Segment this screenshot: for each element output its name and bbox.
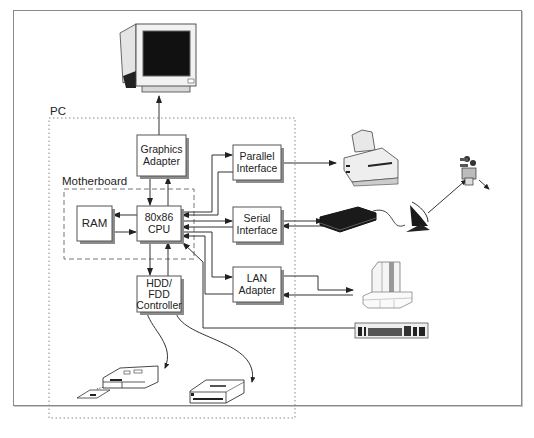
satellite-icon bbox=[460, 156, 476, 185]
keyboard-icon bbox=[355, 323, 428, 338]
floppy-drive-icon bbox=[103, 366, 158, 388]
svg-text:Graphics: Graphics bbox=[140, 143, 182, 155]
block-cpu: 80x86 CPU bbox=[137, 206, 184, 244]
svg-text:Adapter: Adapter bbox=[239, 284, 276, 296]
svg-text:Controller: Controller bbox=[136, 299, 182, 311]
motherboard-label: Motherboard bbox=[62, 175, 127, 187]
printer-icon bbox=[344, 130, 398, 186]
block-serial-interface: Serial Interface bbox=[233, 207, 284, 245]
pc-architecture-diagram: PC Motherboard bbox=[0, 0, 534, 438]
svg-text:80x86: 80x86 bbox=[145, 211, 174, 223]
block-ram: RAM bbox=[77, 206, 115, 244]
block-hdd-fdd-controller: HDD/ FDD Controller bbox=[136, 276, 184, 315]
svg-text:Adapter: Adapter bbox=[143, 155, 180, 167]
svg-text:RAM: RAM bbox=[82, 217, 108, 229]
crt-monitor-icon bbox=[120, 24, 196, 92]
satellite-dish-icon bbox=[406, 202, 430, 232]
svg-text:Interface: Interface bbox=[237, 162, 278, 174]
floppy-disk-icon bbox=[77, 387, 110, 398]
svg-text:LAN: LAN bbox=[247, 272, 267, 284]
mainframe-icon bbox=[363, 262, 412, 308]
block-lan-adapter: LAN Adapter bbox=[233, 267, 284, 305]
modem-icon bbox=[320, 207, 376, 232]
svg-text:Parallel: Parallel bbox=[239, 150, 274, 162]
hard-disk-icon bbox=[190, 380, 244, 403]
block-graphics-adapter: Graphics Adapter bbox=[137, 135, 189, 179]
svg-text:Serial: Serial bbox=[244, 212, 271, 224]
block-parallel-interface: Parallel Interface bbox=[233, 145, 284, 183]
pc-label: PC bbox=[50, 105, 66, 117]
svg-text:CPU: CPU bbox=[148, 223, 170, 235]
svg-text:Interface: Interface bbox=[237, 224, 278, 236]
